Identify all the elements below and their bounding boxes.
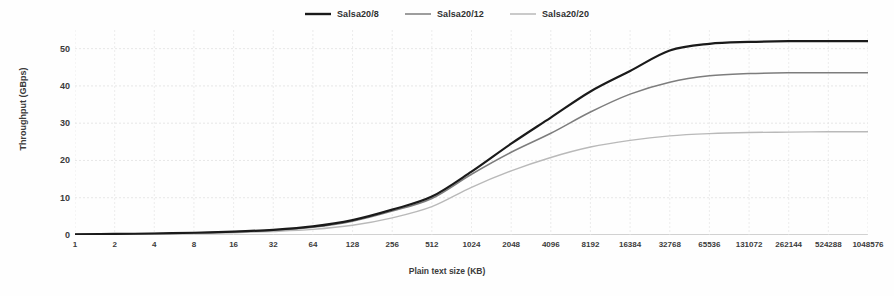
x-axis-tick-label: 256 [386,240,399,249]
y-axis-tick-label: 0 [36,230,70,240]
y-axis-title: Throughput (GBps) [18,39,28,179]
x-axis-tick-label: 2048 [502,240,520,249]
x-axis-tick-label: 8192 [582,240,600,249]
x-axis-title: Plain text size (KB) [0,266,894,276]
chart-legend: Salsa20/8 Salsa20/12 Salsa20/20 [0,4,894,24]
x-axis-tick-label: 32768 [659,240,681,249]
legend-line-icon-salsa20-20 [510,9,536,19]
y-axis-tick-label: 40 [36,81,70,91]
plot-svg [75,30,868,235]
y-axis-tick-labels: 01020304050 [36,30,70,235]
x-axis-tick-label: 32 [269,240,278,249]
legend-label-salsa20-12: Salsa20/12 [437,9,484,19]
x-axis-tick-label: 16 [229,240,238,249]
x-axis-tick-label: 4096 [542,240,560,249]
x-axis-tick-label: 4 [152,240,156,249]
x-axis-tick-label: 8 [192,240,196,249]
x-axis-tick-label: 262144 [775,240,802,249]
throughput-line-chart: Salsa20/8 Salsa20/12 Salsa20/20 Throughp… [0,0,894,296]
legend-line-icon-salsa20-12 [405,9,431,19]
legend-label-salsa20-8: Salsa20/8 [337,9,379,19]
y-axis-tick-label: 30 [36,118,70,128]
x-axis-tick-label: 16384 [619,240,641,249]
x-axis-tick-label: 131072 [736,240,763,249]
x-axis-tick-label: 64 [308,240,317,249]
plot-area [75,30,868,235]
x-axis-tick-label: 128 [346,240,359,249]
x-axis-tick-label: 1024 [463,240,481,249]
legend-entry-salsa20-20[interactable]: Salsa20/20 [510,9,589,19]
x-axis-tick-label: 65536 [698,240,720,249]
x-axis-tick-label: 524288 [815,240,842,249]
y-axis-tick-label: 20 [36,155,70,165]
x-axis-tick-label: 1048576 [852,240,883,249]
x-axis-tick-label: 512 [425,240,438,249]
x-axis-tick-label: 2 [112,240,116,249]
x-axis-tick-labels: 1248163264128256512102420484096819216384… [75,240,868,254]
y-axis-tick-label: 10 [36,193,70,203]
legend-entry-salsa20-8[interactable]: Salsa20/8 [305,9,379,19]
legend-entry-salsa20-12[interactable]: Salsa20/12 [405,9,484,19]
y-axis-tick-label: 50 [36,44,70,54]
legend-line-icon-salsa20-8 [305,9,331,19]
legend-label-salsa20-20: Salsa20/20 [542,9,589,19]
x-axis-tick-label: 1 [73,240,77,249]
